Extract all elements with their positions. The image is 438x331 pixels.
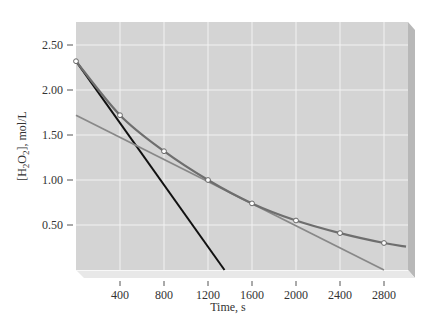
data-point-marker [74,59,79,64]
data-point-marker [294,218,299,223]
plot-area [76,22,408,270]
x-tick-label: 2000 [284,288,308,302]
x-axis-title: Time, s [210,300,246,314]
y-tick-label: 1.50 [42,128,63,142]
y-axis: 0.501.001.502.002.50 [42,38,73,232]
y-tick-label: 2.50 [42,38,63,52]
data-point-marker [338,231,343,236]
data-point-marker [162,149,167,154]
x-tick-label: 400 [111,288,129,302]
x-axis: 40080012001600200024002800 [111,281,396,302]
y-tick-label: 0.50 [42,218,63,232]
x-tick-label: 800 [155,288,173,302]
plot-side-panel [408,22,415,278]
data-point-marker [382,241,387,246]
data-point-marker [118,113,123,118]
data-point-marker [206,178,211,183]
y-axis-title: [H2O2], mol/L [15,111,31,181]
chart: 0.501.001.502.002.50 4008001200160020002… [0,0,438,331]
plot-bottom-panel [76,270,415,278]
y-tick-label: 1.00 [42,173,63,187]
x-tick-label: 2400 [328,288,352,302]
data-point-marker [250,201,255,206]
y-tick-label: 2.00 [42,83,63,97]
x-tick-label: 2800 [372,288,396,302]
